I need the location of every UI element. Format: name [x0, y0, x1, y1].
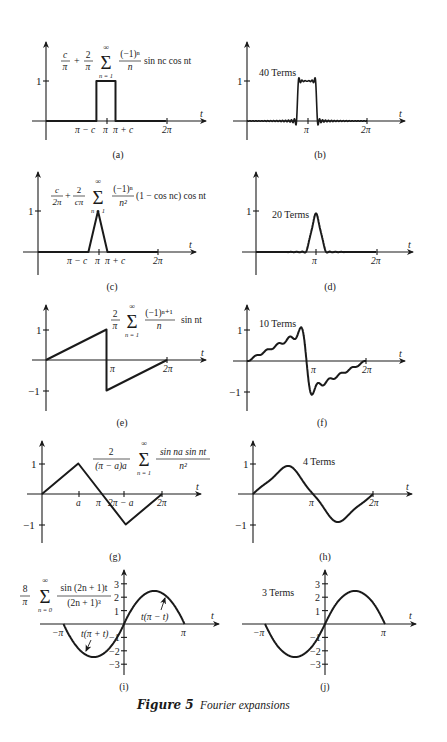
x-tick-label: 2π: [153, 256, 163, 266]
formula: 2 (π − a)a ∞ Σ n = 1 sin na sin nt n²: [93, 439, 210, 476]
caption-label: Figure 5: [136, 698, 194, 712]
y-tick-label: 1: [36, 324, 42, 336]
x-axis-label: t: [189, 239, 192, 250]
terms-annotation: 10 Terms: [259, 318, 296, 329]
panel-label: (a): [112, 149, 123, 161]
x-axis-label: t: [409, 610, 412, 621]
x-axis-label: t: [211, 610, 214, 621]
x-tick-label: π − c: [67, 256, 88, 266]
x-tick-label: π: [110, 364, 115, 374]
x-tick-label: π − c: [75, 125, 96, 135]
x-tick-label: 2π: [162, 125, 172, 135]
x-axis-label: t: [406, 481, 409, 492]
x-tick-label: π: [309, 498, 314, 508]
svg-text:2: 2: [77, 185, 82, 195]
svg-text:2: 2: [86, 50, 91, 60]
y-tick-label: 2: [315, 592, 320, 603]
terms-annotation: 40 Terms: [259, 67, 296, 78]
svg-text:(1 − cos nc) cos nt: (1 − cos nc) cos nt: [136, 191, 206, 202]
formula: c π + 2 π ∞ Σ n = 1 (−1)ⁿ n sin nc cos n…: [61, 43, 192, 79]
panel-h: 1 −1 t π 2π 4 Terms (h): [235, 441, 412, 563]
fourier-figure: 1 t π − c π π + c 2π c π + 2 π ∞ Σ n = 1…: [0, 0, 447, 742]
svg-text:sin nc cos nt: sin nc cos nt: [144, 56, 192, 66]
panel-label: (i): [119, 681, 128, 693]
y-tick-label: 2: [114, 592, 119, 603]
panel-label: (f): [317, 417, 327, 429]
formula: 2 π ∞ Σ n = 1 (−1)ⁿ⁺¹ n sin nt: [111, 302, 202, 338]
x-tick-label: 2π: [361, 125, 371, 135]
x-axis-label: t: [201, 347, 204, 358]
y-tick-label: 1: [315, 606, 320, 617]
y-tick-label: −3: [310, 659, 321, 670]
annotation-arrow: [161, 598, 165, 610]
svg-text:n: n: [128, 62, 133, 72]
formula: 8 π ∞ Σ n = 0 sin (2n + 1)t (2n + 1)³: [20, 576, 111, 613]
panel-label: (g): [109, 551, 121, 563]
x-tick-label: a: [76, 498, 81, 508]
svg-text:Σ: Σ: [126, 311, 137, 332]
x-axis-label: t: [408, 239, 411, 250]
svg-text:sin nt: sin nt: [181, 315, 202, 325]
y-tick-label: 1: [36, 75, 42, 87]
svg-text:n = 1: n = 1: [125, 331, 139, 338]
panel-e: 1 −1 t π 2π 2 π ∞ Σ n = 1 (−1)ⁿ⁺¹ n sin …: [28, 302, 206, 429]
svg-text:π: π: [63, 62, 68, 72]
svg-text:(−1)ⁿ: (−1)ⁿ: [120, 49, 139, 60]
triangle-curve: [38, 211, 158, 252]
svg-text:+: +: [65, 190, 71, 201]
y-tick-label: 1: [246, 205, 252, 217]
formula: c 2π + 2 cπ ∞ Σ n = 1 (−1)ⁿ n² (1 − cos …: [51, 177, 206, 214]
svg-text:c: c: [63, 50, 68, 60]
x-tick-label: 2π: [362, 365, 372, 375]
terms-annotation: 4 Terms: [303, 456, 335, 467]
panel-label: (c): [106, 281, 117, 293]
panel-label: (d): [324, 281, 336, 293]
y-tick-label: 1: [237, 324, 243, 336]
svg-text:(2n + 1)³: (2n + 1)³: [67, 598, 101, 609]
x-tick-label: 2π: [163, 364, 173, 374]
x-tick-label: 2π: [369, 498, 379, 508]
x-tick-label: π: [311, 365, 316, 375]
svg-text:π: π: [113, 321, 118, 331]
y-tick-label: 1: [114, 606, 119, 617]
y-tick-label: 1: [243, 458, 249, 470]
curve-annotation-right: t(π − t): [141, 612, 169, 623]
svg-text:∞: ∞: [129, 302, 135, 311]
svg-text:∞: ∞: [95, 177, 101, 186]
svg-text:(−1)ⁿ: (−1)ⁿ: [113, 184, 132, 195]
panel-label: (j): [320, 681, 329, 693]
svg-text:∞: ∞: [103, 43, 109, 52]
y-tick-label: −1: [235, 519, 247, 531]
figure-caption: Figure 5 Fourier expansions: [136, 698, 290, 712]
svg-text:8: 8: [23, 584, 28, 594]
svg-text:sin (2n + 1)t: sin (2n + 1)t: [61, 583, 108, 594]
panel-b: 1 t π 2π 40 Terms (b): [233, 42, 405, 161]
x-tick-label: π: [381, 628, 386, 638]
curve-annotation-left: t(π + t): [81, 629, 109, 640]
svg-text:sin na sin nt: sin na sin nt: [160, 447, 207, 457]
x-tick-label: π + c: [113, 125, 134, 135]
panel-label: (h): [319, 551, 331, 563]
terms-annotation: 3 Terms: [262, 587, 294, 598]
panel-label: (e): [116, 417, 127, 429]
svg-text:Σ: Σ: [100, 52, 111, 73]
y-tick-label: 1: [237, 75, 243, 87]
svg-text:Σ: Σ: [138, 449, 149, 470]
x-tick-label: π + c: [105, 256, 126, 266]
svg-text:c: c: [55, 185, 59, 195]
panel-j: 321−1−2−3 t −π π 3 Terms (j): [242, 570, 416, 693]
svg-text:Σ: Σ: [39, 586, 50, 607]
svg-text:n²: n²: [179, 461, 187, 471]
y-tick-label: 3: [315, 579, 320, 590]
x-tick-label: 2π: [371, 256, 381, 266]
panel-g: 1 −1 t a π 2π − a 2π 2 (π − a)a ∞ Σ n = …: [23, 439, 210, 563]
y-tick-label: −1: [23, 519, 35, 531]
y-tick-label: 1: [28, 205, 34, 217]
svg-text:∞: ∞: [42, 576, 48, 585]
svg-text:π: π: [86, 62, 91, 72]
x-tick-label: π: [181, 628, 186, 638]
svg-text:n = 1: n = 1: [137, 469, 151, 476]
x-tick-label: π: [103, 125, 108, 135]
x-tick-label: π: [312, 256, 317, 266]
x-axis-label: t: [399, 348, 402, 359]
